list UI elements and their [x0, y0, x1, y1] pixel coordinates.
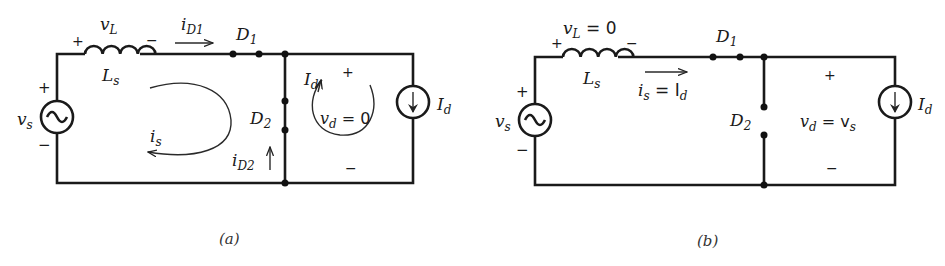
d1-b-label: D1	[715, 26, 737, 49]
source-a-plus: +	[38, 79, 51, 97]
circuit-a: + − vs + − vL Ls iD1 D1 D2 iD2 is Id	[17, 14, 452, 248]
load-b-label: Id	[917, 94, 933, 117]
caption-a: (a)	[219, 230, 240, 248]
source-b-label: vs	[495, 111, 511, 134]
d2-anode-dot	[761, 132, 768, 139]
vd-a-label: vd = 0	[320, 109, 371, 131]
is-b-label: is = Id	[638, 80, 688, 103]
d2-anode-dot	[282, 127, 289, 134]
ls-b-label: Ls	[582, 68, 600, 91]
vd-a-plus: +	[342, 64, 354, 80]
inductor-a-plus: +	[72, 33, 84, 49]
vl-a-label: vL	[100, 14, 118, 37]
vd-a-minus: −	[345, 160, 357, 176]
junction-bottom-dot	[282, 180, 289, 187]
junction-bottom-dot	[761, 182, 768, 189]
source-b-minus: −	[516, 141, 529, 159]
vd-b-label: vd = vs	[800, 112, 856, 134]
d1-a-label: D1	[235, 24, 257, 47]
d1-cathode-dot	[256, 51, 263, 58]
wire-a-left	[57, 54, 85, 101]
vd-b-plus: +	[824, 67, 836, 83]
vl-b-label: vL = 0	[563, 18, 616, 41]
ls-a-label: Ls	[101, 65, 119, 88]
source-a-minus: −	[38, 136, 51, 154]
load-a-label: Id	[436, 94, 452, 117]
sine-icon	[47, 112, 67, 122]
d1-cathode-dot	[737, 54, 744, 61]
caption-b: (b)	[697, 232, 718, 250]
source-a-label: vs	[17, 109, 33, 132]
wire-b-left	[535, 57, 563, 104]
d2-a-label: D2	[249, 108, 271, 131]
d2-cathode-dot	[282, 98, 289, 105]
is-a-label: is	[150, 126, 162, 149]
inductor-a-minus: −	[146, 32, 158, 48]
circuit-b: + − vs + − vL = 0 Ls is = Id D1 D2 vd = …	[495, 18, 933, 250]
d1-anode-dot	[230, 51, 237, 58]
id-loop-label: Id	[303, 69, 319, 92]
inductor-b-plus: +	[551, 35, 563, 51]
junction-top-dot	[282, 51, 289, 58]
d1-anode-dot	[710, 54, 717, 61]
junction-top-dot	[761, 54, 768, 61]
vd-b-minus: −	[826, 160, 838, 176]
commutation-diagram: + − vs + − vL Ls iD1 D1 D2 iD2 is Id	[0, 0, 945, 266]
sine-icon	[525, 115, 545, 125]
d2-cathode-dot	[761, 104, 768, 111]
inductor-b-minus: −	[626, 35, 638, 51]
wire-a-top	[140, 54, 413, 86]
source-b-plus: +	[516, 83, 529, 101]
id1-label: iD1	[181, 14, 204, 37]
id2-label: iD2	[232, 150, 255, 173]
d2-b-label: D2	[729, 110, 751, 133]
